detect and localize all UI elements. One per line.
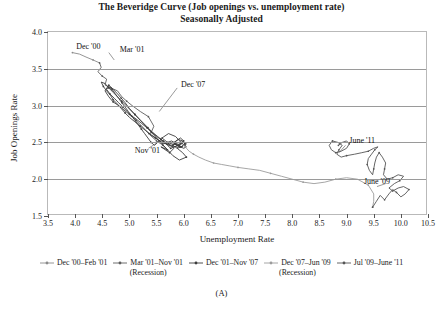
- x-tick-mark: [292, 214, 293, 218]
- x-tick-mark: [347, 214, 348, 218]
- legend-marker-icon: [337, 259, 351, 267]
- x-tick-mark: [401, 214, 402, 218]
- data-point-marker: [169, 152, 171, 154]
- x-tick-mark: [75, 214, 76, 218]
- legend-sublabel: (Recession): [130, 268, 167, 277]
- series-line: [72, 53, 99, 63]
- x-tick-mark: [184, 214, 185, 218]
- legend-label: Dec '07–Jun '09: [281, 258, 331, 267]
- legend-marker-icon: [264, 259, 278, 267]
- data-point-marker: [126, 100, 128, 102]
- data-point-marker: [372, 206, 374, 208]
- legend-item-3[interactable]: Dec '07–Jun '09(Recession): [261, 258, 334, 277]
- x-tick-mark: [157, 214, 158, 218]
- data-point-marker: [183, 144, 185, 146]
- y-tick-label: 4.0: [32, 28, 42, 37]
- legend-item-1[interactable]: Mar '01–Nov '01(Recession): [110, 258, 186, 277]
- data-point-marker: [162, 144, 164, 146]
- data-point-marker: [396, 192, 398, 194]
- annotation-label: June '09: [364, 177, 390, 186]
- chart-title: The Beveridge Curve (Job openings vs. un…: [0, 2, 443, 25]
- y-tick-mark: [44, 32, 48, 33]
- x-tick-label: 4.5: [97, 219, 107, 228]
- data-point-marker: [378, 152, 380, 154]
- data-point-marker: [121, 100, 123, 102]
- x-tick-label: 10.5: [421, 219, 435, 228]
- data-point-marker: [148, 133, 150, 135]
- data-point-marker: [131, 115, 133, 117]
- y-tick-mark: [44, 106, 48, 107]
- data-point-marker: [346, 155, 348, 157]
- data-point-marker: [213, 162, 215, 164]
- y-tick-label: 1.5: [32, 212, 42, 221]
- data-point-marker: [160, 139, 162, 141]
- x-tick-mark: [129, 214, 130, 218]
- data-point-marker: [129, 114, 131, 116]
- data-point-marker: [112, 101, 114, 103]
- data-point-marker: [121, 102, 123, 104]
- legend-row: Dec '07–Jun '09: [264, 258, 331, 267]
- x-tick-label: 5.0: [124, 219, 134, 228]
- y-tick-label: 3.5: [32, 64, 42, 73]
- x-tick-label: 10.0: [394, 219, 408, 228]
- gridline: [48, 69, 426, 70]
- annotation-label: Dec '00: [76, 42, 100, 51]
- data-point-marker: [367, 150, 369, 152]
- legend-item-2[interactable]: Dec '01–Nov '07: [186, 258, 261, 267]
- data-point-marker: [124, 112, 126, 114]
- legend-label: Dec '01–Nov '07: [206, 258, 258, 267]
- beveridge-curve-lines: [48, 32, 428, 216]
- y-tick-label: 3.0: [32, 101, 42, 110]
- data-point-marker: [193, 153, 195, 155]
- x-tick-label: 7.5: [260, 219, 270, 228]
- legend-row: Dec '01–Nov '07: [189, 258, 258, 267]
- annotation-label: Nov '01: [135, 146, 160, 155]
- x-tick-mark: [265, 214, 266, 218]
- gridline: [48, 106, 426, 107]
- legend-sublabel: (Recession): [279, 268, 316, 277]
- data-point-marker: [366, 164, 368, 166]
- x-tick-label: 4.0: [70, 219, 80, 228]
- data-point-marker: [155, 137, 157, 139]
- data-point-marker: [335, 152, 337, 154]
- legend-row: Mar '01–Nov '01: [113, 258, 183, 267]
- x-tick-mark: [374, 214, 375, 218]
- annotation-leader-line: [159, 88, 177, 112]
- data-point-marker: [147, 127, 149, 129]
- data-point-marker: [111, 89, 113, 91]
- legend-row: Jul '09–June '11: [337, 258, 403, 267]
- data-point-marker: [101, 75, 103, 77]
- data-point-marker: [338, 144, 340, 146]
- data-point-marker: [167, 149, 169, 151]
- legend-item-0[interactable]: Dec '00–Feb '01: [37, 258, 110, 267]
- chart-title-line1: The Beveridge Curve (Job openings vs. un…: [98, 2, 344, 12]
- legend-marker-icon: [189, 259, 203, 267]
- legend-marker-icon: [113, 259, 127, 267]
- x-tick-label: 6.0: [179, 219, 189, 228]
- x-tick-label: 5.5: [152, 219, 162, 228]
- x-tick-label: 8.0: [287, 219, 297, 228]
- data-point-marker: [384, 168, 386, 170]
- data-point-marker: [150, 131, 152, 133]
- y-tick-mark: [44, 179, 48, 180]
- x-tick-label: 3.5: [43, 219, 53, 228]
- legend-row: Dec '00–Feb '01: [40, 258, 107, 267]
- legend-marker-icon: [40, 259, 54, 267]
- y-tick-mark: [44, 69, 48, 70]
- legend-item-4[interactable]: Jul '09–June '11: [334, 258, 406, 267]
- data-point-marker: [141, 128, 143, 130]
- figure-caption: (A): [0, 288, 443, 298]
- data-point-marker: [270, 172, 272, 174]
- x-tick-mark: [102, 214, 103, 218]
- y-axis-title: Job Openings Rate: [9, 73, 19, 183]
- series-line: [329, 141, 409, 207]
- data-point-marker: [237, 167, 239, 169]
- annotation-leader-line: [109, 53, 114, 60]
- data-point-marker: [161, 137, 163, 139]
- data-point-marker: [392, 190, 394, 192]
- x-tick-label: 8.5: [314, 219, 324, 228]
- x-tick-label: 9.5: [369, 219, 379, 228]
- x-tick-label: 7.0: [233, 219, 243, 228]
- data-point-marker: [72, 52, 74, 54]
- data-point-marker: [172, 144, 174, 146]
